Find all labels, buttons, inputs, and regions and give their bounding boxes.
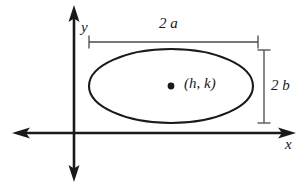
vertical-dimension-line (258, 50, 271, 123)
ellipse-diagram: y x 2 a 2 b (h, k) (0, 0, 306, 187)
vertical-axis (69, 5, 80, 182)
diagram-canvas (0, 0, 306, 187)
x-axis-label: x (285, 137, 292, 152)
ellipse-center-dot (168, 83, 175, 90)
dimension-2b-label: 2 b (271, 78, 290, 93)
dimension-2a-label: 2 a (159, 16, 178, 31)
horizontal-dimension-line (89, 36, 258, 49)
horizontal-axis (12, 128, 296, 139)
ellipse-center-label: (h, k) (184, 76, 216, 91)
y-axis-label: y (81, 20, 88, 35)
